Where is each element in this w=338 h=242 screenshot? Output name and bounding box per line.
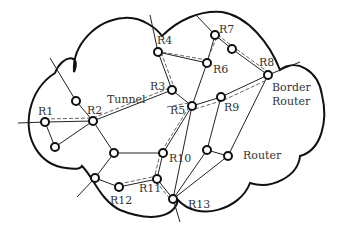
router-node-r9[interactable] — [217, 93, 225, 101]
router-node-r6[interactable] — [203, 59, 211, 67]
router-node-r13[interactable] — [169, 195, 177, 203]
router-node-r7[interactable] — [211, 31, 219, 39]
label-router: Router — [243, 149, 282, 162]
router-node-unlabeled[interactable] — [72, 97, 80, 105]
router-node-r10[interactable] — [159, 149, 167, 157]
router-node-r4[interactable] — [154, 48, 162, 56]
label-r3: R3 — [150, 80, 165, 93]
network-diagram: R1 R2 R3 R4 R5 R6 R7 R8 R9 R10 R11 R12 R… — [0, 0, 338, 242]
router-node-r1[interactable] — [41, 118, 49, 126]
label-r7: R7 — [219, 23, 234, 36]
label-r5: R5 — [170, 104, 185, 117]
router-node-unlabeled[interactable] — [51, 143, 59, 151]
router-node-r2[interactable] — [89, 117, 97, 125]
label-r11: R11 — [139, 182, 161, 195]
label-r6: R6 — [213, 63, 228, 76]
label-border-router-line1: Border — [272, 81, 312, 94]
label-tunnel: Tunnel — [107, 93, 146, 106]
label-r9: R9 — [224, 101, 239, 114]
label-r10: R10 — [169, 152, 191, 165]
label-r12: R12 — [110, 194, 132, 207]
router-node-r12[interactable] — [115, 183, 123, 191]
label-r2: R2 — [87, 104, 102, 117]
router-node-r3[interactable] — [168, 86, 176, 94]
router-node-router[interactable] — [224, 152, 232, 160]
router-node-r5[interactable] — [188, 102, 196, 110]
label-r1: R1 — [38, 105, 53, 118]
label-border-router-line2: Router — [272, 95, 311, 108]
router-node-unlabeled[interactable] — [91, 174, 99, 182]
router-node-r8[interactable] — [264, 71, 272, 79]
router-node-unlabeled[interactable] — [110, 149, 118, 157]
router-node-unlabeled[interactable] — [228, 45, 236, 53]
label-r4: R4 — [157, 34, 172, 47]
label-r8: R8 — [259, 56, 274, 69]
label-r13: R13 — [188, 198, 210, 211]
router-node-unlabeled[interactable] — [203, 146, 211, 154]
